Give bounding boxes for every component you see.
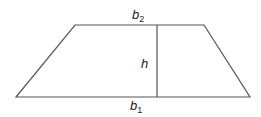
trapezoid-shape: [16, 25, 250, 97]
bottom-base-label: b1: [130, 98, 142, 115]
height-label: h: [141, 56, 148, 71]
top-base-label: b2: [132, 7, 144, 24]
trapezoid-diagram: b2 h b1: [0, 0, 261, 117]
